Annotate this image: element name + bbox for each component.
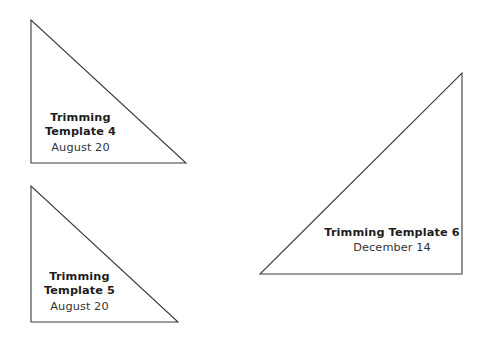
label-template-5: Trimming Template 5 August 20 — [22, 270, 137, 314]
template-6-date: December 14 — [318, 241, 466, 255]
template-6-title-line-1: Trimming Template 6 — [318, 226, 466, 240]
template-4-title-line-1: Trimming — [23, 111, 138, 125]
template-4-date: August 20 — [23, 141, 138, 155]
label-template-4: Trimming Template 4 August 20 — [23, 111, 138, 155]
label-template-6: Trimming Template 6 December 14 — [318, 226, 466, 256]
template-4-title-line-2: Template 4 — [23, 125, 138, 139]
template-sheet: Trimming Template 4 August 20 Trimming T… — [0, 0, 485, 339]
template-5-title-line-1: Trimming — [22, 270, 137, 284]
template-5-title-line-2: Template 5 — [22, 284, 137, 298]
template-5-date: August 20 — [22, 300, 137, 314]
